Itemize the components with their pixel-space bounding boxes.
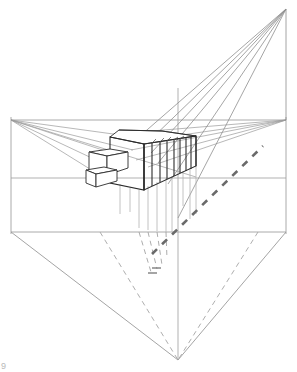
corner-page-mark: 9 [1,362,6,371]
perspective-construction-svg [0,0,297,372]
triangle-right-edge [178,232,286,360]
perspective-drawing-canvas: 9 [0,0,297,372]
lower-triangle-group [11,232,286,360]
light-direction-dashed-line [152,146,263,254]
shadow-ray-4 [166,232,167,259]
light-ray-4 [158,9,286,163]
light-ray-6 [178,9,286,218]
light-rays-group [140,9,286,218]
light-ray-3 [151,9,286,153]
vpr-ray-5 [148,120,286,167]
dashed-ray-right [178,232,258,360]
shadow-ray-3 [157,232,162,265]
shadow-ray-1 [139,232,151,272]
pillars-group [144,136,196,190]
